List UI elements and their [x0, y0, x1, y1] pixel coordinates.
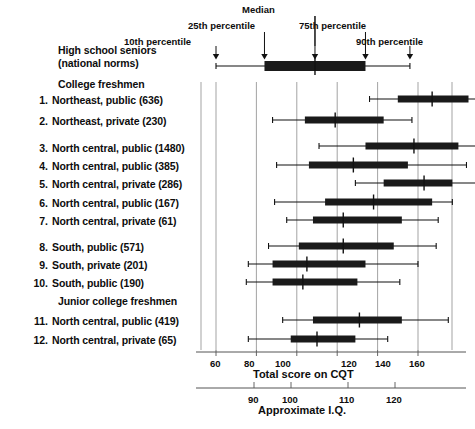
- plot-area: [0, 0, 475, 429]
- boxplot-chart: Median 25th percentile 75th percentile 1…: [0, 0, 475, 429]
